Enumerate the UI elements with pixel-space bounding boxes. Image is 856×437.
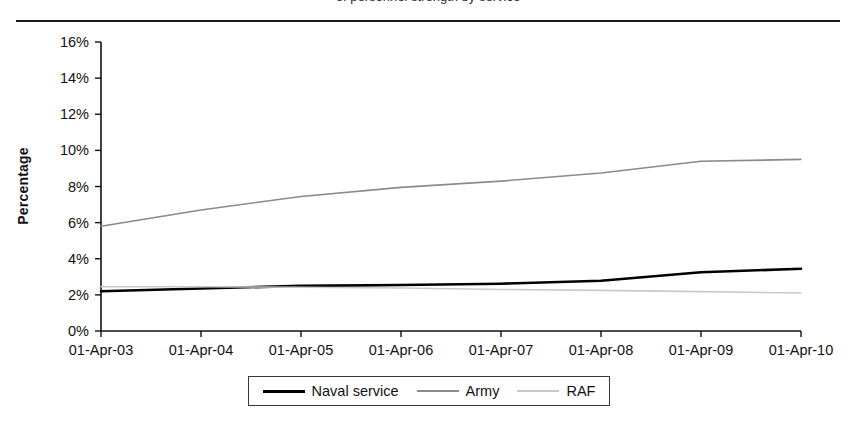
y-tick-label: 6% [68,215,89,231]
x-tick-label: 01-Apr-09 [669,342,733,358]
y-tick-label: 12% [60,106,89,122]
chart-legend: Naval service Army RAF [248,376,610,406]
x-tick-label: 01-Apr-04 [169,342,233,358]
x-tick-label: 01-Apr-08 [569,342,633,358]
legend-item-army: Army [417,383,500,399]
x-axis-ticks: 01-Apr-0301-Apr-0401-Apr-0501-Apr-0601-A… [69,331,833,358]
legend-label-army: Army [466,383,500,399]
y-tick-label: 16% [60,34,89,50]
x-tick-label: 01-Apr-06 [369,342,433,358]
x-tick-label: 01-Apr-03 [69,342,133,358]
plot-area: Percentage 0%2%4%6%8%10%12%14%16% 01-Apr… [0,28,856,358]
legend-item-raf: RAF [517,383,595,399]
y-tick-label: 2% [68,287,89,303]
data-series-group [101,159,801,293]
y-tick-label: 14% [60,70,89,86]
y-tick-label: 8% [68,179,89,195]
legend-item-naval-service: Naval service [263,383,399,399]
x-tick-label: 01-Apr-05 [269,342,333,358]
y-tick-label: 10% [60,142,89,158]
y-tick-label: 4% [68,251,89,267]
x-tick-label: 01-Apr-10 [769,342,833,358]
y-tick-label: 0% [68,323,89,339]
series-line-army [101,159,801,226]
x-tick-label: 01-Apr-07 [469,342,533,358]
army-line-swatch [417,390,459,392]
naval-line-swatch [263,390,305,393]
y-axis-ticks: 0%2%4%6%8%10%12%14%16% [60,34,101,339]
legend-label-naval-service: Naval service [312,383,399,399]
y-axis-label: Percentage [15,121,31,251]
raf-line-swatch [517,390,559,392]
top-horizontal-rule [16,20,840,22]
caption-text: of personnel strength by service [16,0,840,5]
caption-cutoff-strip: of personnel strength by service [16,0,840,5]
figure-container: of personnel strength by service Percent… [0,0,856,437]
series-line-naval-service [101,269,801,292]
line-chart-svg: 0%2%4%6%8%10%12%14%16% 01-Apr-0301-Apr-0… [0,28,856,358]
legend-label-raf: RAF [566,383,595,399]
